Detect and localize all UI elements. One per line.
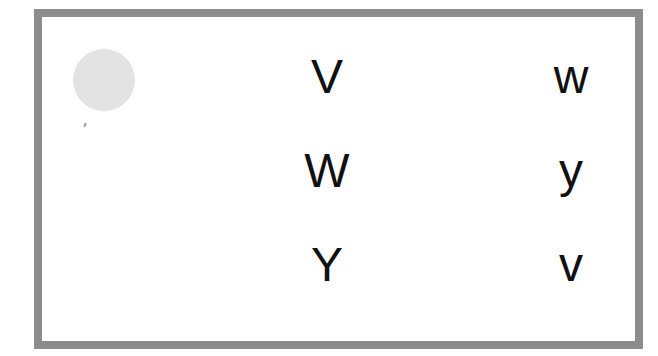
- left-letter-3: Y: [311, 241, 343, 289]
- speck: [83, 123, 86, 127]
- circle-marker: [73, 49, 135, 111]
- card: V W Y w y v: [34, 9, 643, 349]
- right-letter-1: w: [554, 53, 589, 101]
- right-letter-2: y: [559, 147, 583, 195]
- left-letter-2: W: [304, 147, 349, 195]
- right-letter-3: v: [559, 241, 583, 289]
- left-letter-1: V: [311, 53, 343, 101]
